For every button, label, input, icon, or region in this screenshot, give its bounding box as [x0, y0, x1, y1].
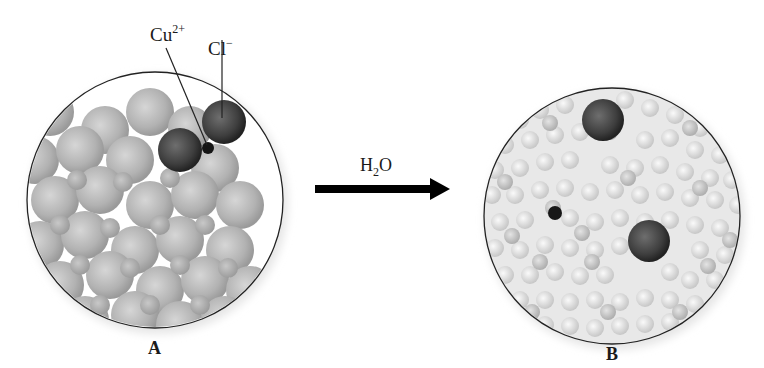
cu-ion-label: Cu2+: [150, 24, 185, 46]
diagram-canvas: [0, 0, 764, 368]
arrow-label-water: H2O: [360, 155, 392, 180]
panel-a-crystal: [11, 40, 288, 349]
chloride-ion-bottom: [628, 220, 670, 262]
panel-b-label: B: [606, 344, 618, 365]
chloride-ion-left: [158, 128, 202, 172]
panel-a-label: A: [148, 338, 161, 359]
chloride-ion-right: [202, 100, 246, 144]
panel-b-solution: [483, 88, 747, 350]
chloride-ion-top: [582, 99, 624, 141]
copper-ion: [202, 142, 214, 154]
cl-ion-label: Cl−: [208, 38, 233, 60]
copper-ion-dissolved: [548, 206, 562, 220]
reaction-arrow: [315, 178, 450, 200]
